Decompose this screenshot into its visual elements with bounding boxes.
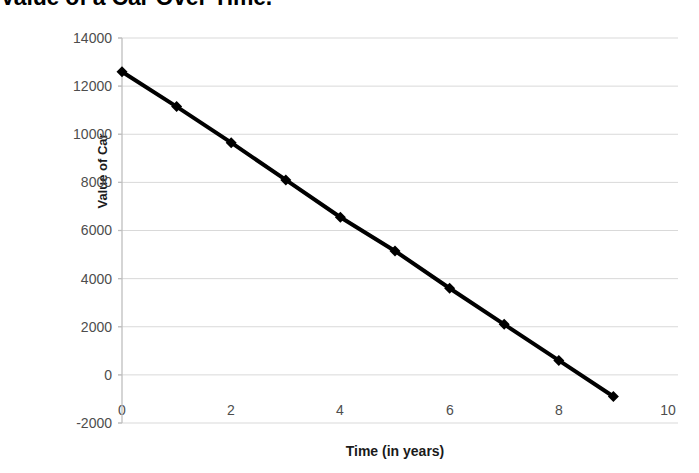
chart-figure: Value of a Car Over Time. Value of Car T… [0,0,699,473]
plot-area [0,0,699,473]
gridlines [118,38,678,423]
data-line [122,72,613,397]
